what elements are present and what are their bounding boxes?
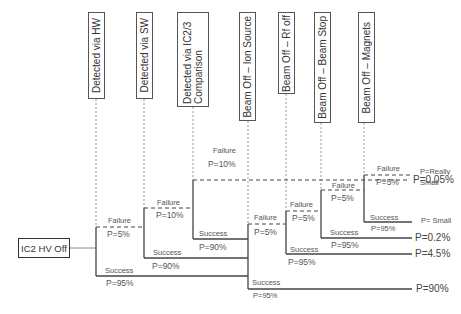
- initiating-event-box: IC2 HV Off: [18, 238, 70, 258]
- mag-failure-label: Failure: [377, 164, 400, 173]
- bs-success-prob: P=95%: [331, 240, 359, 250]
- tree-lines: [0, 0, 461, 314]
- rf-failure-label: Failure: [290, 200, 313, 209]
- outcome-p-0-2: P=0.2%: [415, 232, 450, 243]
- bs-failure-prob: P=5%: [331, 193, 354, 203]
- ic-success-label: Success: [199, 229, 227, 238]
- hw-failure-label: Failure: [108, 216, 131, 225]
- mag-success-label: Success: [370, 213, 398, 222]
- ic-success-prob: P=90%: [199, 242, 227, 252]
- initiating-event-label: IC2 HV Off: [21, 243, 67, 254]
- sw-failure-prob: P=10%: [156, 210, 184, 220]
- mag-success-prob: P=95%: [371, 224, 395, 233]
- ion-success-label: Success: [252, 278, 280, 287]
- rf-success-prob: P=95%: [288, 257, 316, 267]
- mag-failure-prob: P=5%: [376, 177, 399, 187]
- ion-failure-label: Failure: [254, 213, 277, 222]
- outcome-p-4-5: P=4.5%: [415, 248, 450, 259]
- bs-failure-label: Failure: [332, 181, 355, 190]
- rf-failure-prob: P=5%: [292, 213, 315, 223]
- hw-success-prob: P=95%: [106, 278, 134, 288]
- outcome-p-small: P= Small: [421, 215, 451, 226]
- outcome-p-90: P=90%: [416, 283, 449, 294]
- ic-failure-label: Failure: [213, 146, 236, 155]
- ic-failure-prob: P=10%: [208, 159, 236, 169]
- sw-success-prob: P=90%: [152, 261, 180, 271]
- rf-success-label: Success: [290, 245, 318, 254]
- outcome-p-really-small: P=Really Small: [420, 166, 456, 188]
- ion-failure-prob: P=5%: [254, 227, 277, 237]
- hw-success-label: Success: [105, 266, 133, 275]
- sw-success-label: Success: [153, 248, 181, 257]
- hw-failure-prob: P=5%: [107, 229, 130, 239]
- bs-success-label: Success: [330, 228, 358, 237]
- sw-failure-label: Failure: [157, 198, 180, 207]
- ion-success-prob: P=95%: [253, 291, 277, 300]
